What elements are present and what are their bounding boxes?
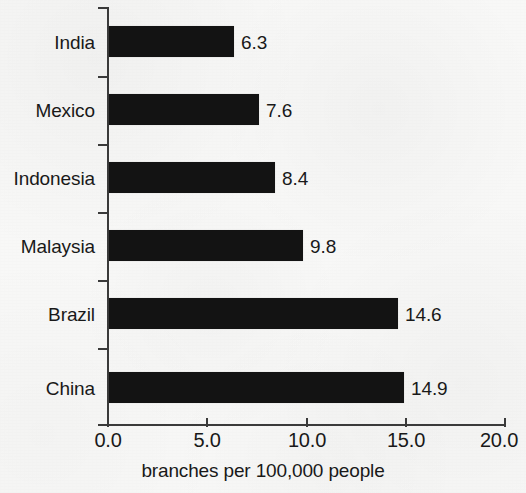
category-label-mexico: Mexico — [35, 101, 95, 120]
x-axis-tick — [306, 418, 308, 427]
y-axis-tick — [98, 280, 108, 282]
category-label-brazil: Brazil — [48, 305, 95, 324]
value-label-mexico: 7.6 — [266, 101, 292, 120]
x-tick-label-0: 0.0 — [94, 430, 121, 450]
value-label-china: 14.9 — [411, 379, 448, 398]
bar-china — [109, 372, 404, 403]
x-axis-tick — [206, 418, 208, 427]
y-axis-tick — [98, 76, 108, 78]
x-tick-label-5: 5.0 — [193, 430, 220, 450]
bar-brazil — [109, 298, 398, 329]
value-label-malaysia: 9.8 — [310, 237, 336, 256]
y-axis-tick — [98, 7, 108, 9]
plot-area: India Mexico Indonesia Malaysia Brazil C… — [0, 0, 526, 493]
category-label-malaysia: Malaysia — [21, 237, 95, 256]
x-tick-label-10: 10.0 — [288, 430, 326, 450]
y-axis-line — [107, 7, 109, 426]
y-axis-tick — [98, 144, 108, 146]
value-label-indonesia: 8.4 — [282, 169, 308, 188]
bar-mexico — [109, 94, 259, 125]
x-axis-title: branches per 100,000 people — [0, 461, 526, 480]
x-tick-label-20: 20.0 — [480, 430, 518, 450]
bar-chart-figure: India Mexico Indonesia Malaysia Brazil C… — [0, 0, 526, 493]
bar-malaysia — [109, 230, 303, 261]
x-axis-tick — [107, 418, 109, 427]
bar-india — [109, 26, 234, 57]
y-axis-tick — [98, 348, 108, 350]
y-axis-tick — [98, 212, 108, 214]
value-label-brazil: 14.6 — [405, 305, 442, 324]
category-label-india: India — [54, 33, 95, 52]
x-axis-tick — [405, 418, 407, 427]
category-label-china: China — [46, 379, 95, 398]
x-axis-tick — [504, 418, 506, 427]
bar-indonesia — [109, 162, 275, 193]
value-label-india: 6.3 — [241, 33, 267, 52]
x-tick-label-15: 15.0 — [387, 430, 425, 450]
category-label-indonesia: Indonesia — [13, 169, 95, 188]
